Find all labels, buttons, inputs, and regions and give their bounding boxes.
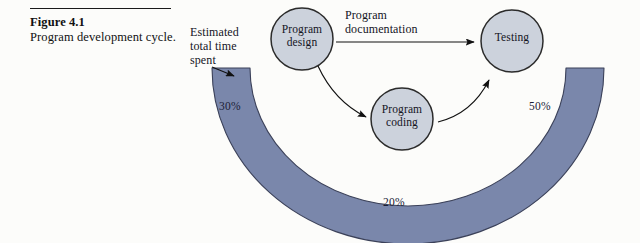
node-label-testing: Testing: [469, 31, 555, 44]
figure-caption: Figure 4.1 Program development cycle.: [30, 8, 178, 44]
caption-title: Figure 4.1: [30, 15, 178, 30]
label-program-documentation: Program documentation: [345, 8, 465, 36]
node-label-program-coding: Program coding: [359, 103, 445, 129]
node-label-program-design: Program design: [259, 23, 345, 49]
arc-percent-label-design: 30%: [208, 100, 252, 113]
label-estimated-total-time-spent: Estimated total time spent: [190, 25, 266, 67]
caption-rule: [30, 8, 171, 9]
caption-text: Program development cycle.: [30, 30, 178, 45]
arrow-coding-to-testing: [438, 80, 489, 122]
figure-page: Figure 4.1 Program development cycle. Es…: [0, 0, 640, 243]
arc-percent-label-coding: 20%: [372, 196, 416, 209]
arc-percent-label-testing: 50%: [518, 100, 562, 113]
